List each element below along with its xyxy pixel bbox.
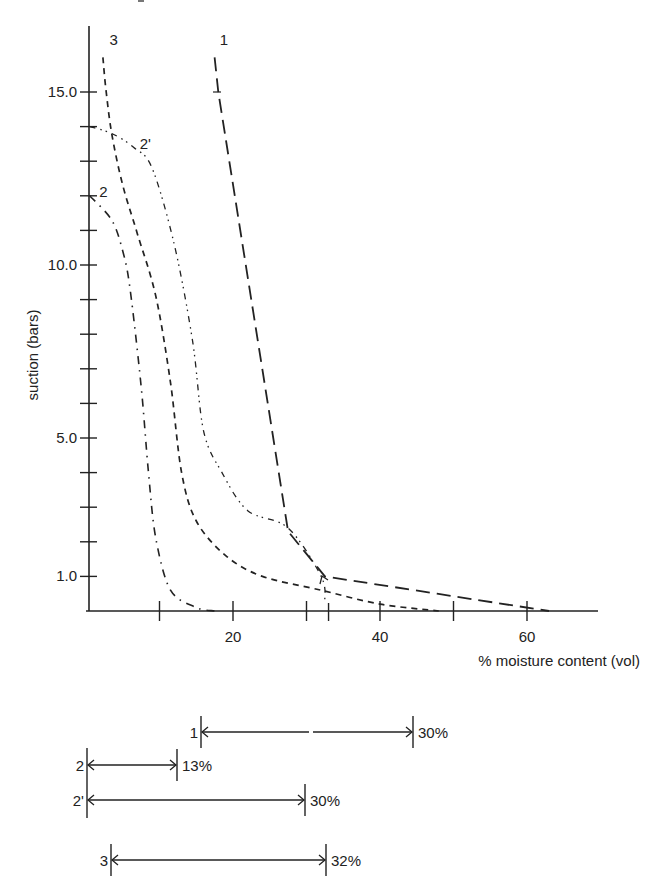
- range-2prime: 2'30%: [73, 784, 340, 816]
- curve-2prime: [90, 127, 325, 601]
- range-curve-label: 1: [190, 724, 198, 741]
- range-value: 30%: [418, 724, 448, 741]
- range-curve-label: 2': [73, 792, 84, 809]
- curve1-bend-mark: [320, 576, 328, 584]
- range-value: 32%: [331, 852, 361, 869]
- curve-3: [103, 57, 439, 611]
- range-curve-label: 2: [76, 757, 84, 774]
- range-2: 213%: [76, 748, 212, 818]
- range-curve-label: 3: [100, 852, 108, 869]
- available-water-ranges: 130%213%2'30%332%: [73, 716, 448, 876]
- curve-1: [215, 57, 549, 611]
- range-value: 13%: [182, 757, 212, 774]
- y-tick-label: 1.0: [56, 567, 77, 584]
- x-tick-label: 60: [519, 628, 536, 645]
- curve-label-1: 1: [220, 31, 228, 48]
- curve-label-2prime: 2': [140, 135, 151, 152]
- top-edge-fragment: [138, 0, 144, 2]
- y-axis-label: suction (bars): [24, 310, 41, 401]
- curve-label-2: 2: [99, 183, 107, 200]
- curves: [90, 57, 549, 611]
- range-1: 130%: [190, 716, 448, 748]
- y-tick-label: 10.0: [48, 256, 77, 273]
- range-3: 332%: [100, 844, 361, 876]
- x-axis-ticks: 204060: [160, 601, 536, 645]
- x-tick-label: 40: [372, 628, 389, 645]
- x-axis-label: % moisture content (vol): [478, 652, 640, 669]
- y-tick-label: 15.0: [48, 83, 77, 100]
- curve-label-3: 3: [110, 31, 118, 48]
- axes: [86, 26, 598, 611]
- moisture-suction-chart: 1.05.010.015.0 204060 122'3 suction (bar…: [0, 0, 667, 892]
- x-tick-label: 20: [225, 628, 242, 645]
- range-value: 30%: [310, 792, 340, 809]
- y-axis-ticks: 1.05.010.015.0: [48, 83, 221, 584]
- curve-labels: 122'3: [99, 31, 228, 200]
- y-tick-label: 5.0: [56, 429, 77, 446]
- curve-2: [90, 196, 215, 611]
